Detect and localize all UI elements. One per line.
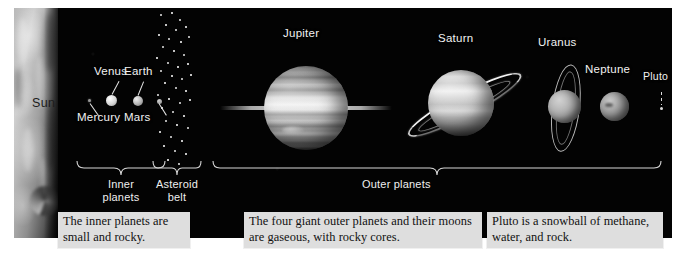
neptune-dark-spot: [605, 103, 613, 107]
label-uranus: Uranus: [538, 36, 577, 48]
figure-canvas: Sun: [0, 0, 681, 254]
asteroid-belt: [154, 10, 194, 170]
label-mercury: Mercury: [77, 111, 120, 123]
planet-earth: [133, 96, 143, 106]
caption-inner-planets: The inner planets are small and rocky.: [58, 212, 190, 248]
planet-mercury: [88, 99, 91, 102]
planet-venus: [106, 95, 117, 106]
bracket-outer-planets: [212, 160, 662, 176]
label-earth: Earth: [124, 65, 153, 77]
label-pluto: Pluto: [643, 70, 668, 82]
label-neptune: Neptune: [585, 63, 630, 75]
sun-label: Sun: [32, 96, 55, 110]
jupiter-great-red-spot: [282, 126, 304, 134]
label-jupiter: Jupiter: [283, 27, 319, 39]
planet-jupiter: [264, 66, 348, 150]
planet-neptune: [600, 92, 629, 121]
leader-line-venus: [112, 81, 120, 95]
label-mars: Mars: [124, 111, 151, 123]
bracket-asteroid-belt: [152, 160, 202, 176]
caption-outer-planets: The four giant outer planets and their m…: [244, 212, 482, 248]
group-label-asteroid-belt: Asteroid belt: [147, 178, 207, 204]
sun-filament: [23, 128, 33, 172]
caption-pluto: Pluto is a snowball of methane, water, a…: [487, 212, 663, 248]
sun-limb: Sun: [14, 8, 58, 238]
leader-line-pluto: [661, 92, 662, 105]
planet-saturn: [428, 70, 494, 136]
group-label-line-1: Asteroid: [147, 178, 207, 191]
label-saturn: Saturn: [438, 32, 473, 44]
sun-limb-falloff: [44, 8, 58, 238]
group-label-outer-planets: Outer planets: [362, 178, 512, 191]
space-panel: Sun: [14, 8, 672, 238]
planet-pluto: [660, 107, 663, 110]
sun-filament: [18, 18, 27, 64]
label-venus: Venus: [94, 65, 127, 77]
sun-shadow: [14, 68, 22, 108]
group-label-line-2: belt: [147, 191, 207, 204]
leader-line-earth: [138, 81, 145, 95]
planet-uranus: [548, 90, 581, 123]
